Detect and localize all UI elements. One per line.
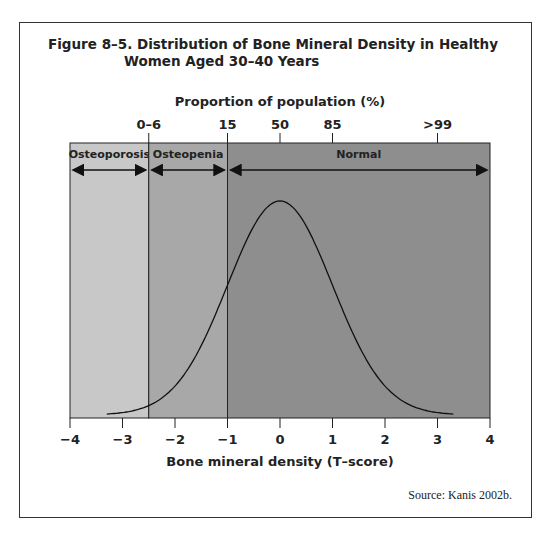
chart-svg: Proportion of population (%) Osteoporosi… — [0, 0, 554, 544]
x-tick-label: 3 — [433, 432, 442, 447]
region-label: Osteopenia — [153, 148, 224, 161]
x-tick-label: −2 — [165, 432, 185, 447]
top-ticks: 0–6155085>99 — [136, 117, 452, 143]
source-note: Source: Kanis 2002b. — [408, 488, 512, 503]
x-tick-label: 1 — [328, 432, 337, 447]
x-tick-label: 2 — [380, 432, 389, 447]
x-ticks: −4−3−2−101234 — [60, 418, 495, 447]
top-tick-label: 85 — [323, 117, 341, 132]
region-normal — [228, 143, 491, 418]
x-tick-label: 4 — [485, 432, 494, 447]
x-tick-label: 0 — [275, 432, 284, 447]
top-tick-label: 0–6 — [136, 117, 161, 132]
top-axis-label: Proportion of population (%) — [175, 94, 385, 109]
top-tick-label: 15 — [218, 117, 236, 132]
region-label: Osteoporosis — [69, 148, 151, 161]
x-tick-label: −3 — [113, 432, 133, 447]
region-osteoporosis — [70, 143, 149, 418]
region-osteopenia — [149, 143, 228, 418]
top-tick-label: >99 — [423, 117, 452, 132]
x-tick-label: −1 — [218, 432, 238, 447]
top-tick-label: 50 — [271, 117, 289, 132]
region-label: Normal — [336, 148, 381, 161]
x-tick-label: −4 — [60, 432, 80, 447]
x-axis-label: Bone mineral density (T–score) — [166, 454, 393, 469]
regions: OsteoporosisOsteopeniaNormal — [69, 143, 490, 418]
